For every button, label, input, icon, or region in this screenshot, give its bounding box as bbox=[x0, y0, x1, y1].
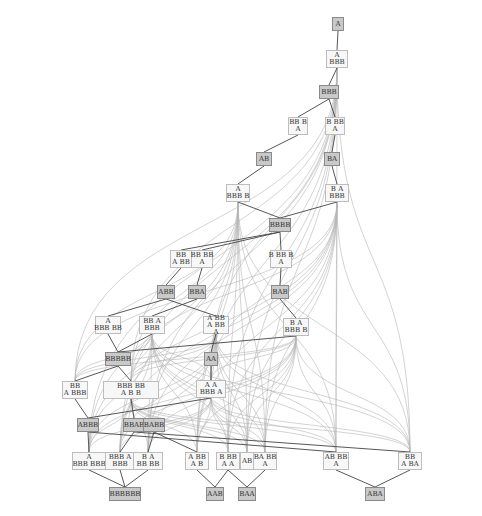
node-label: BA bbox=[327, 156, 337, 163]
graph-node[interactable]: A bbox=[332, 17, 344, 31]
node-label: BB BBA bbox=[191, 252, 214, 266]
graph-node[interactable]: ABBB BB bbox=[95, 316, 121, 334]
node-label: ABA bbox=[367, 491, 382, 498]
graph-node[interactable]: BBBBB bbox=[105, 352, 131, 366]
graph-edge-primary bbox=[197, 470, 215, 487]
graph-node[interactable]: A BBA BBA bbox=[203, 316, 229, 334]
node-label: ABBB B bbox=[227, 186, 250, 200]
graph-edge bbox=[131, 399, 410, 452]
graph-node[interactable]: BBA bbox=[188, 285, 206, 299]
graph-edge-primary bbox=[375, 470, 410, 487]
graph-node[interactable]: B ABB BB bbox=[133, 452, 163, 470]
graph-edge-primary bbox=[108, 334, 118, 352]
graph-edge bbox=[337, 68, 410, 452]
node-label: B BBA A bbox=[219, 454, 237, 468]
graph-node[interactable]: ABBB bbox=[326, 50, 348, 68]
graph-node[interactable]: BBA BBB bbox=[62, 381, 88, 399]
node-label: B BBA bbox=[326, 119, 344, 133]
node-label: AA bbox=[206, 356, 216, 363]
graph-edge-primary bbox=[215, 470, 228, 487]
graph-node[interactable]: A ABBB A bbox=[196, 380, 226, 398]
graph-node[interactable]: BBB ABBB bbox=[105, 452, 135, 470]
graph-node[interactable]: BBA BB bbox=[170, 250, 192, 268]
graph-node[interactable]: A BBA B bbox=[185, 452, 209, 470]
graph-node[interactable]: B ABBB B bbox=[283, 318, 309, 336]
node-label: A BBA B bbox=[188, 454, 206, 468]
node-label: BBA bbox=[189, 289, 204, 296]
graph-edge-primary bbox=[89, 470, 125, 487]
node-label: BAB bbox=[272, 289, 287, 296]
graph-node[interactable]: ABBB bbox=[77, 418, 99, 432]
graph-node[interactable]: AAB bbox=[206, 487, 224, 501]
graph-edge-primary bbox=[238, 166, 264, 184]
graph-node[interactable]: BBBBBB bbox=[109, 487, 141, 501]
graph-edge-primary bbox=[202, 232, 280, 250]
graph-node[interactable]: BBA BA bbox=[398, 452, 422, 470]
node-label: ABBB BBB bbox=[72, 454, 105, 468]
graph-edge-primary bbox=[298, 99, 329, 117]
graph-edge-primary bbox=[336, 470, 375, 487]
node-label: BAA bbox=[239, 491, 254, 498]
graph-node[interactable]: BA BBA bbox=[253, 452, 277, 470]
graph-edge bbox=[296, 336, 410, 452]
graph-node[interactable]: B BBA A bbox=[216, 452, 240, 470]
graph-edge-primary bbox=[88, 432, 89, 452]
node-label: BBBB bbox=[270, 222, 291, 229]
graph-node[interactable]: ABBB B bbox=[226, 184, 250, 202]
node-label: BBB ABBB bbox=[109, 454, 132, 468]
graph-node[interactable]: BAA bbox=[238, 487, 256, 501]
graph-node[interactable]: AA bbox=[204, 352, 218, 366]
node-label: BB ABBB bbox=[143, 318, 161, 332]
node-label: A BBA BBA bbox=[207, 315, 225, 336]
graph-canvas: AABBBBBBBB BAB BBAABBAABBB BB ABBBBBBBBB… bbox=[0, 0, 482, 516]
graph-node[interactable]: AB bbox=[256, 152, 272, 166]
graph-node[interactable]: BB BBA bbox=[191, 250, 213, 268]
graph-node[interactable]: BA bbox=[324, 152, 340, 166]
graph-edge-primary bbox=[280, 232, 281, 250]
graph-edge bbox=[296, 336, 336, 452]
graph-edge-primary bbox=[247, 470, 265, 487]
node-label: B ABB BB bbox=[137, 454, 160, 468]
graph-edge bbox=[131, 202, 238, 381]
graph-node[interactable]: AB bbox=[240, 452, 254, 470]
graph-edge bbox=[337, 202, 410, 452]
graph-node[interactable]: ABB bbox=[157, 285, 175, 299]
node-label: BBA BBB bbox=[64, 383, 87, 397]
node-label: BBBBBB bbox=[110, 491, 141, 498]
graph-node[interactable]: B ABBB bbox=[325, 184, 349, 202]
graph-edge bbox=[216, 334, 336, 452]
graph-edge-primary bbox=[332, 166, 337, 184]
graph-edge-primary bbox=[125, 470, 148, 487]
graph-node[interactable]: B BBA bbox=[325, 117, 345, 135]
node-label: BBA BB bbox=[172, 252, 190, 266]
node-label: ABBB bbox=[78, 422, 99, 429]
graph-node[interactable]: BAB bbox=[271, 285, 289, 299]
graph-node[interactable]: BBB BBA B B bbox=[103, 381, 159, 399]
node-label: B ABBB B bbox=[285, 320, 308, 334]
node-label: A ABBB A bbox=[200, 382, 223, 396]
graph-node[interactable]: ABA bbox=[365, 487, 385, 501]
graph-node[interactable]: BBBB bbox=[269, 218, 291, 232]
graph-edge-primary bbox=[337, 31, 338, 50]
node-label: ABBB BB bbox=[94, 318, 122, 332]
graph-node[interactable]: AB BBA bbox=[323, 452, 349, 470]
graph-node[interactable]: B BB BA bbox=[270, 250, 292, 268]
graph-node[interactable]: BBAB bbox=[123, 418, 145, 432]
graph-node[interactable]: BBB bbox=[319, 85, 339, 99]
node-label: BBAB bbox=[124, 422, 145, 429]
edge-layer bbox=[0, 0, 482, 516]
node-label: AB BBA bbox=[325, 454, 348, 468]
node-label: A bbox=[335, 21, 340, 28]
graph-edge-primary bbox=[120, 470, 125, 487]
graph-node[interactable]: BB ABBB bbox=[139, 316, 165, 334]
node-label: BBB BBA B B bbox=[117, 383, 145, 397]
graph-node[interactable]: BB BA bbox=[288, 117, 308, 135]
node-label: BBB bbox=[321, 89, 336, 96]
node-label: B BB BA bbox=[268, 252, 293, 266]
node-label: AB bbox=[242, 458, 252, 465]
graph-node[interactable]: BABB bbox=[143, 418, 165, 432]
graph-edge-primary bbox=[75, 399, 88, 418]
graph-node[interactable]: ABBB BBB bbox=[72, 452, 106, 470]
graph-edge-primary bbox=[228, 470, 247, 487]
graph-edge-primary bbox=[166, 268, 181, 285]
